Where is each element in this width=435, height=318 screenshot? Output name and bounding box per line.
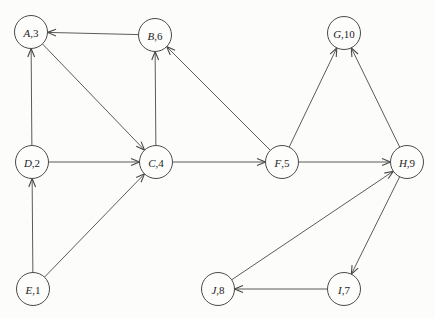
dependency-graph-figure: A,3B,6G,10D,2C,4F,5H,9E,1J,8I,7 (0, 0, 435, 318)
edge-B-A (47, 32, 138, 34)
edge-H-I (351, 177, 399, 274)
edge-H-G (351, 48, 400, 147)
node-F-label: F,5 (274, 157, 290, 169)
node-A: A,3 (15, 16, 48, 49)
node-G: G,10 (328, 17, 361, 50)
node-E-label: E,1 (25, 284, 41, 296)
node-G-label: G,10 (333, 28, 355, 40)
node-C-label: C,4 (148, 157, 164, 169)
edge-E-D (32, 178, 33, 272)
node-D: D,2 (16, 146, 49, 179)
edge-J-H (232, 171, 394, 280)
node-F: F,5 (266, 146, 299, 179)
node-H-label: H,9 (398, 157, 416, 169)
node-I: I,7 (328, 273, 361, 306)
edge-D-A (31, 48, 32, 145)
edge-F-G (289, 48, 337, 147)
node-B: B,6 (139, 19, 172, 52)
graph-svg: A,3B,6G,10D,2C,4F,5H,9E,1J,8I,7 (0, 0, 435, 318)
node-D-label: D,2 (23, 157, 40, 169)
node-A-label: A,3 (23, 27, 39, 39)
node-B-label: B,6 (148, 30, 163, 42)
node-J: J,8 (202, 273, 235, 306)
edge-C-B (155, 51, 156, 145)
graph-canvas: A,3B,6G,10D,2C,4F,5H,9E,1J,8I,7 (0, 0, 435, 318)
node-H: H,9 (391, 146, 424, 179)
edge-E-C (44, 174, 144, 277)
node-I-label: I,7 (337, 284, 350, 296)
edge-A-C (42, 44, 144, 150)
edge-F-B (167, 47, 271, 151)
node-C: C,4 (140, 146, 173, 179)
node-J-label: J,8 (211, 284, 225, 296)
node-E: E,1 (17, 273, 50, 306)
